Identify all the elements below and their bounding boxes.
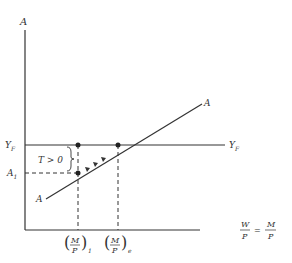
svg-text:P: P [111,246,118,255]
aggregate-bottom-label: A [35,194,43,204]
tick-m-p-1: ( M P ) 1 [64,233,92,255]
x-axis-label: W P = M P [240,220,276,241]
gap-brace [67,147,74,171]
diagram-canvas: A YF YF A A A1 T > 0 ( M P ) 1 ( M P ) e [0,0,292,263]
svg-text:1: 1 [88,247,92,254]
svg-text:=: = [254,226,261,235]
svg-text:W: W [241,220,250,229]
svg-text:P: P [241,232,248,241]
a1-label: A1 [6,168,17,180]
aggregate-top-label: A [203,98,211,108]
svg-text:e: e [128,247,132,254]
point-equilibrium [116,143,121,148]
svg-text:(: ( [64,233,70,252]
y-axis-label: A [19,16,27,27]
point-a1 [76,171,81,176]
svg-text:(: ( [104,233,110,252]
svg-text:M: M [70,236,80,245]
tick-m-p-e: ( M P ) e [104,233,132,255]
yf-left-label: YF [5,140,16,152]
svg-text:): ) [81,233,87,252]
point-yf-at-1 [76,143,81,148]
yf-right-label: YF [229,140,240,152]
svg-text:P: P [267,232,274,241]
svg-text:M: M [266,220,276,229]
svg-text:P: P [71,246,78,255]
gap-label: T > 0 [38,155,63,165]
aggregate-line [46,104,202,199]
svg-text:): ) [121,233,127,252]
svg-text:M: M [110,236,120,245]
